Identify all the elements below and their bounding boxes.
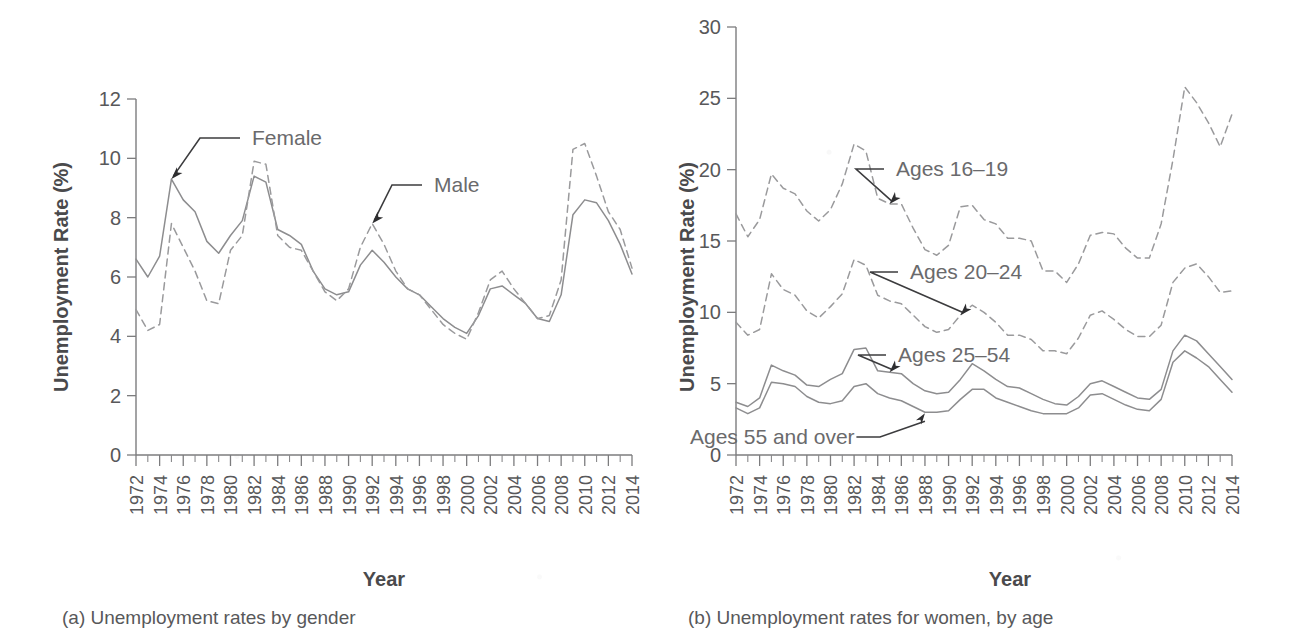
b-y-tick-label: 25 [699,87,721,109]
b-x-tick-label: 1996 [1010,475,1030,515]
b-x-tick-label: 1988 [916,475,936,515]
b-x-tick-label: 2010 [1176,475,1196,515]
a-y-tick-label: 4 [110,325,121,347]
a-x-tick-label: 2010 [576,475,596,515]
a-x-tick-label: 1998 [434,475,454,515]
b-annotation-arrowhead [890,192,901,204]
panel-b-x-axis-title: Year [989,568,1031,590]
b-x-tick-label: 2002 [1081,475,1101,515]
a-x-tick-label: 2004 [505,475,525,515]
b-annotation-arrowhead [960,303,971,315]
a-series-male [136,144,632,340]
a-y-tick-label: 10 [99,147,121,169]
a-x-tick-label: 1978 [198,475,218,515]
a-annotation-arrowhead [171,167,182,179]
unemployment-figure: 0246810121972197419761978198019821984198… [0,0,1316,634]
b-x-tick-label: 1992 [963,475,983,515]
b-x-tick-label: 2008 [1152,475,1172,515]
b-y-tick-label: 30 [699,16,721,38]
b-x-tick-label: 2000 [1058,475,1078,515]
b-annotation-label: Ages 25–54 [898,343,1010,366]
a-x-tick-label: 2014 [623,475,643,515]
b-x-tick-label: 1976 [774,475,794,515]
panel-b-caption: (b) Unemployment rates for women, by age [688,607,1053,628]
a-y-tick-label: 12 [99,88,121,110]
a-x-tick-label: 1974 [151,475,171,515]
panel-a-caption: (a) Unemployment rates by gender [62,607,356,628]
panel-a-y-axis-title: Unemployment Rate (%) [50,162,72,392]
a-y-tick-label: 0 [110,444,121,466]
a-x-tick-label: 1980 [221,475,241,515]
b-annotation-label: Ages 55 and over [690,425,855,448]
a-x-tick-label: 1994 [387,475,407,515]
b-y-tick-label: 20 [699,159,721,181]
b-y-tick-label: 10 [699,301,721,323]
a-x-tick-label: 1982 [245,475,265,515]
a-x-tick-label: 1988 [316,475,336,515]
a-annotation-label: Female [252,126,322,149]
b-x-tick-label: 1986 [892,475,912,515]
panel-b: 0510152025301972197419761978198019821984… [658,0,1316,634]
b-annotation-label: Ages 16–19 [896,157,1008,180]
panel-b-y-axis-title: Unemployment Rate (%) [676,162,698,392]
a-y-tick-label: 8 [110,207,121,229]
a-x-tick-label: 2008 [552,475,572,515]
a-x-tick-label: 2002 [481,475,501,515]
a-y-tick-label: 2 [110,385,121,407]
a-x-tick-label: 1992 [363,475,383,515]
a-annotation-leader [374,185,422,221]
a-x-tick-label: 2000 [458,475,478,515]
a-x-tick-label: 1984 [269,475,289,515]
b-x-tick-label: 1978 [798,475,818,515]
b-x-tick-label: 1998 [1034,475,1054,515]
a-x-tick-label: 2012 [599,475,619,515]
a-annotation-leader [173,138,240,176]
a-x-tick-label: 1972 [127,475,147,515]
panel-a-plot: 0246810121972197419761978198019821984198… [0,0,658,634]
b-x-tick-label: 2006 [1129,475,1149,515]
b-y-tick-label: 5 [710,373,721,395]
b-x-tick-label: 2004 [1105,475,1125,515]
a-annotation-arrowhead [372,212,383,224]
a-y-tick-label: 6 [110,266,121,288]
b-annotation-leader [856,421,925,437]
a-x-tick-label: 1986 [292,475,312,515]
b-series-ages-16-19 [736,87,1232,282]
b-x-tick-label: 1994 [987,475,1007,515]
a-x-tick-label: 2006 [529,475,549,515]
b-y-tick-label: 15 [699,230,721,252]
b-x-tick-label: 1982 [845,475,865,515]
b-x-tick-label: 2012 [1199,475,1219,515]
a-annotation-label: Male [434,173,480,196]
b-annotation-leader [858,355,892,369]
b-x-tick-label: 1984 [869,475,889,515]
b-x-tick-label: 1980 [821,475,841,515]
b-x-tick-label: 1972 [727,475,747,515]
panel-a: 0246810121972197419761978198019821984198… [0,0,658,634]
panel-a-x-axis-title: Year [363,568,405,590]
b-x-tick-label: 1974 [751,475,771,515]
b-annotation-leader [856,169,892,201]
panel-b-plot: 0510152025301972197419761978198019821984… [658,0,1316,634]
a-x-tick-label: 1996 [410,475,430,515]
a-x-tick-label: 1976 [174,475,194,515]
b-x-tick-label: 1990 [940,475,960,515]
b-annotation-label: Ages 20–24 [910,260,1022,283]
b-x-tick-label: 2014 [1223,475,1243,515]
a-x-tick-label: 1990 [340,475,360,515]
